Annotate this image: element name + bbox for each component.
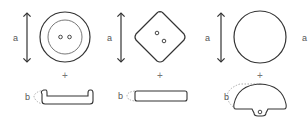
button-hole [155, 31, 159, 35]
dimension-b-label: b [224, 92, 229, 102]
dimension-b-label: b [25, 92, 30, 102]
button-measurement-diagram: a + b a + b a + b a [0, 0, 308, 127]
plus-connector: + [157, 70, 163, 81]
plus-connector: + [257, 70, 263, 81]
dimension-b-label: b [118, 91, 123, 101]
side-profile-dome [234, 84, 287, 116]
button-hole [59, 35, 63, 39]
shank-loop [258, 110, 262, 114]
dimension-b-curve [127, 91, 135, 101]
dimension-a-label: a [205, 33, 210, 43]
button-outer-rim [40, 12, 90, 62]
button-inner-rim [48, 20, 82, 54]
plus-connector: + [62, 70, 68, 81]
dimension-b-curve [227, 84, 258, 109]
dimension-a-label: a [107, 33, 112, 43]
button-diamond-outline [135, 12, 185, 62]
dimension-a-label: a [13, 33, 18, 43]
button-hole [162, 39, 166, 43]
button-hole [68, 35, 72, 39]
square-button-figure: a + b [107, 12, 187, 101]
edge-dimension-label: a [302, 33, 307, 43]
side-profile-rimmed [41, 90, 93, 104]
side-profile-flat [135, 91, 187, 101]
shank-button-figure: a + b [205, 11, 286, 116]
button-plain-circle [234, 11, 286, 63]
round-button-figure: a + b [13, 12, 93, 104]
